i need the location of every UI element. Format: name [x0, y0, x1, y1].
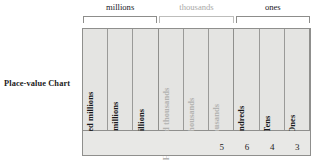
digit-value: 3	[285, 142, 310, 153]
group-label: millions	[82, 1, 158, 13]
place-column: Ten millions	[108, 29, 133, 130]
place-column: Millions	[133, 29, 158, 130]
digit-cell[interactable]: 4	[260, 131, 285, 155]
bracket-rule	[83, 16, 157, 23]
digit-row: 5643	[82, 131, 311, 156]
place-column: Ones	[285, 29, 310, 130]
group-label: ones	[235, 1, 311, 13]
place-column-label: Tens	[263, 116, 272, 133]
digit-cell[interactable]	[184, 131, 209, 155]
group-bracket-ones: ones	[235, 0, 311, 28]
place-column: Hundred millions	[83, 29, 108, 130]
digit-value: 6	[234, 142, 259, 153]
digit-cell[interactable]: 5	[209, 131, 234, 155]
group-label: thousands	[158, 1, 234, 13]
digit-cell[interactable]	[108, 131, 133, 155]
digit-cell[interactable]	[83, 131, 108, 155]
digit-cell[interactable]: 6	[234, 131, 259, 155]
place-column: Hundreds	[234, 29, 259, 130]
digit-cell[interactable]	[133, 131, 158, 155]
group-bracket-thousands: thousands	[158, 0, 234, 28]
group-header-band: millionsthousandsones	[82, 0, 311, 28]
digit-value: 5	[209, 142, 234, 153]
place-value-grid: Hundred millionsTen millionsMillionsHund…	[82, 28, 311, 131]
digit-cell[interactable]	[159, 131, 184, 155]
place-column: Tens	[260, 29, 285, 130]
place-column: Ten thousands	[184, 29, 209, 130]
page-title: Place-value Chart	[4, 79, 80, 89]
place-column: Thousands	[209, 29, 234, 130]
bracket-rule	[159, 16, 233, 23]
bracket-rule	[236, 16, 310, 23]
group-bracket-millions: millions	[82, 0, 158, 28]
place-column: Hundred thousands	[159, 29, 184, 130]
place-value-chart: Place-value Chart millionsthousandsones …	[0, 0, 319, 160]
digit-value: 4	[260, 142, 285, 153]
digit-cell[interactable]: 3	[285, 131, 310, 155]
